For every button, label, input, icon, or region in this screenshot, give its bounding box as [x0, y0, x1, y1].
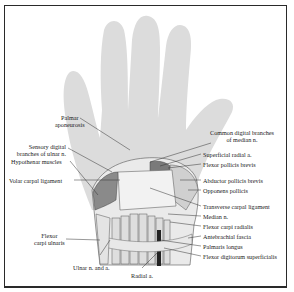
label-line: aponeurosis — [55, 121, 85, 128]
label-flexor-digitorum-superficialis: Flexor digitorum superficialis — [203, 253, 277, 260]
label-median-n: Median n. — [203, 213, 228, 220]
label-line: carpi ulnaris — [34, 239, 65, 246]
label-superficial-radial-a: Superficial radial a. — [203, 151, 252, 158]
label-abductor-pollicis-brevis: Abductor pollicis brevis — [203, 177, 263, 184]
label-opponens-pollicis: Opponens pollicis — [203, 187, 248, 194]
label-line: Common digital branches — [210, 129, 274, 136]
label-line: Flexor digitorum superficialis — [203, 253, 277, 260]
label-line: of median n. — [210, 136, 274, 143]
label-line: Hypothenar muscles — [11, 158, 62, 165]
label-line: Antebrachial fascia — [203, 233, 251, 240]
label-transverse-carpal-ligament: Transverse carpal ligament — [203, 203, 270, 210]
label-line: branches of ulnar n. — [10, 150, 66, 157]
label-line: Flexor carpi radialis — [203, 223, 253, 230]
label-line: Transverse carpal ligament — [203, 203, 270, 210]
label-line: Volar carpal ligament — [9, 177, 62, 184]
label-antebrachial-fascia: Antebrachial fascia — [203, 233, 251, 240]
label-flexor-carpi-ulnaris: Flexor carpi ulnaris — [34, 232, 65, 246]
label-common-digital-branches-median: Common digital branches of median n. — [210, 129, 274, 143]
label-line: Ulnar n. and a. — [73, 264, 110, 271]
label-line: Radial a. — [131, 272, 153, 279]
label-flexor-pollicis-brevis: Flexor pollicis brevis — [203, 161, 256, 168]
label-palmar-aponeurosis: Palmar aponeurosis — [55, 114, 85, 128]
label-hypothenar-muscles: Hypothenar muscles — [11, 158, 62, 165]
label-ulnar-n-and-a: Ulnar n. and a. — [73, 264, 110, 271]
label-line: Opponens pollicis — [203, 187, 248, 194]
label-line: Palmaris longus — [203, 243, 243, 250]
label-palmaris-longus: Palmaris longus — [203, 243, 243, 250]
label-line: Abductor pollicis brevis — [203, 177, 263, 184]
carpal-region — [92, 158, 198, 266]
label-radial-a: Radial a. — [131, 272, 153, 279]
label-line: Median n. — [203, 213, 228, 220]
label-sensory-digital-branches-ulnar: Sensory digital branches of ulnar n. — [10, 143, 66, 157]
label-line: Palmar — [55, 114, 85, 121]
label-volar-carpal-ligament: Volar carpal ligament — [9, 177, 62, 184]
label-line: Flexor — [34, 232, 65, 239]
label-line: Sensory digital — [10, 143, 66, 150]
label-line: Superficial radial a. — [203, 151, 252, 158]
label-line: Flexor pollicis brevis — [203, 161, 256, 168]
label-flexor-carpi-radialis: Flexor carpi radialis — [203, 223, 253, 230]
